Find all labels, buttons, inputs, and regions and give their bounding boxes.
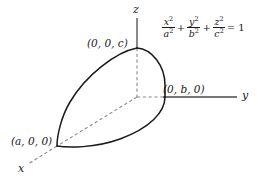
plus-sign-1: + — [176, 22, 185, 33]
equation-x-num-exponent: 2 — [169, 15, 173, 23]
arc-yz-plane — [137, 48, 165, 97]
equation-term-y: y2 b2 — [187, 17, 200, 38]
point-label-x-intercept: (a, 0, 0) — [11, 136, 52, 147]
equation-right-hand-side: = 1 — [227, 22, 245, 33]
equation-z-num-exponent: 2 — [220, 15, 224, 23]
plus-sign-2: + — [202, 22, 211, 33]
equation-term-x: x2 a2 — [162, 17, 175, 38]
arc-xy-plane-rim — [57, 97, 165, 147]
point-label-z-intercept: (0, 0, c) — [87, 38, 128, 49]
equation-c-den-exponent: 2 — [220, 26, 224, 34]
ellipsoid-octant-figure: z y x (0, 0, c) (0, b, 0) (a, 0, 0) x2 a… — [0, 0, 258, 185]
equation-term-z: z2 c2 — [213, 17, 225, 38]
equation-a-den-exponent: 2 — [169, 26, 173, 34]
z-axis-label: z — [133, 4, 139, 15]
equation-y-num-exponent: 2 — [194, 15, 198, 23]
y-axis-label: y — [242, 90, 248, 101]
ellipsoid-equation: x2 a2 + y2 b2 + z2 c2 = 1 — [162, 17, 245, 38]
arc-xz-plane — [57, 48, 137, 146]
equation-b-den-exponent: 2 — [195, 26, 199, 34]
x-axis-visible-segment — [28, 146, 57, 164]
point-label-y-intercept: (0, b, 0) — [163, 84, 205, 95]
x-axis-label: x — [18, 163, 24, 174]
